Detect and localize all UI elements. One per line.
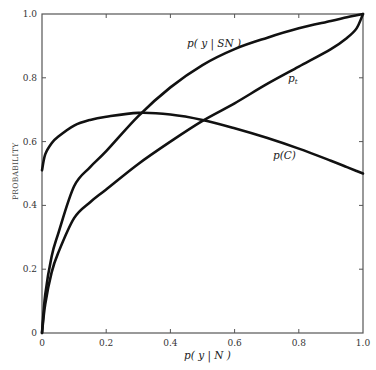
y-tick-label: 1.0: [23, 9, 38, 19]
x-tick-label: 0.4: [163, 338, 178, 348]
axis-tick-labels: 00.20.40.60.81.000.20.40.60.81.0: [23, 9, 371, 348]
y-tick-label: 0.8: [23, 73, 38, 83]
x-tick-label: 0.8: [292, 338, 307, 348]
y-tick-label: 0.4: [23, 200, 38, 210]
plot-frame: [42, 14, 363, 333]
y-tick-label: 0: [31, 328, 37, 338]
x-tick-label: 0.2: [99, 338, 113, 348]
label-p-c: p(C): [273, 149, 296, 161]
x-tick-label: 0: [39, 338, 45, 348]
label-p-y-sn: p( y | SN ): [187, 37, 241, 51]
y-tick-label: 0.2: [23, 264, 37, 274]
curve-p-y-sn-: [42, 14, 363, 333]
x-tick-label: 1.0: [356, 338, 371, 348]
y-axis-title: PROBABILITY: [11, 142, 20, 200]
curves: [42, 14, 363, 333]
y-tick-label: 0.6: [23, 137, 38, 147]
x-axis-title: p( y | N ): [184, 349, 231, 363]
curve-p-t: [42, 14, 363, 333]
probability-chart: 00.20.40.60.81.000.20.40.60.81.0 p( y | …: [0, 0, 376, 370]
axis-ticks: [42, 14, 363, 333]
x-tick-label: 0.6: [227, 338, 242, 348]
label-p-t: pt: [288, 72, 298, 86]
